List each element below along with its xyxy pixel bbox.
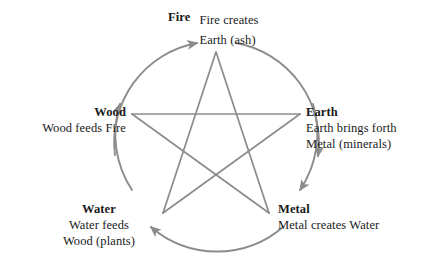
element-name-metal: Metal	[278, 201, 379, 217]
element-desc-fire-line-2: Earth (ash)	[199, 33, 255, 47]
element-name-fire: Fire	[168, 9, 190, 25]
element-desc-fire-line-1: Fire creates	[199, 13, 258, 27]
star-edge-water-fire	[163, 52, 216, 213]
element-desc-metal-line-1: Metal creates Water	[278, 217, 379, 233]
label-metal: Metal Metal creates Water	[278, 201, 379, 233]
arc-wood-to-fire	[114, 43, 197, 155]
five-elements-diagram: Fire Fire creates Earth (ash) Wood Wood …	[0, 0, 437, 277]
element-name-wood: Wood	[0, 104, 126, 120]
element-name-earth: Earth	[306, 104, 397, 120]
element-desc-fire: Fire creates Earth (ash)	[199, 9, 258, 50]
label-water: Water Water feeds Wood (plants)	[38, 201, 160, 249]
star-edge-metal-wood	[132, 114, 269, 213]
label-wood: Wood Wood feeds Fire	[0, 104, 126, 136]
element-name-water: Water	[38, 201, 160, 217]
label-earth: Earth Earth brings forth Metal (minerals…	[306, 104, 397, 152]
element-desc-water-line-2: Wood (plants)	[38, 233, 160, 249]
pentagram-star-lines	[132, 52, 300, 213]
label-fire: Fire Fire creates Earth (ash)	[168, 9, 259, 50]
arc-metal-to-water	[151, 227, 283, 252]
star-edge-earth-water	[163, 114, 300, 213]
star-edge-fire-metal	[216, 52, 269, 213]
element-desc-earth-line-1: Earth brings forth	[306, 120, 397, 136]
element-desc-wood-line-1: Wood feeds Fire	[0, 120, 126, 136]
element-desc-water-line-1: Water feeds	[38, 217, 160, 233]
element-desc-earth-line-2: Metal (minerals)	[306, 136, 397, 152]
